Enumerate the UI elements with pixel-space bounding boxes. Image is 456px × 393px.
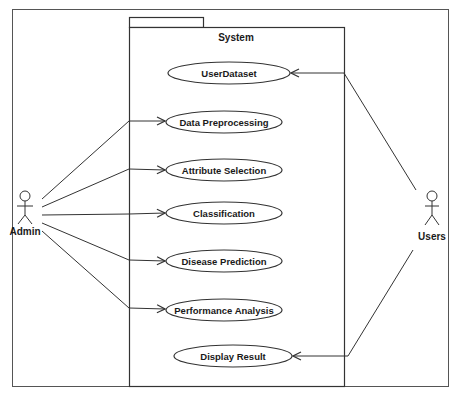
use-case-display-result[interactable]: Display Result xyxy=(174,345,292,367)
use-case-data-preprocessing[interactable]: Data Preprocessing xyxy=(166,111,282,133)
use-case-performance-analysis[interactable]: Performance Analysis xyxy=(166,299,282,321)
actor-users[interactable]: Users xyxy=(418,191,446,242)
package-tab xyxy=(130,18,204,28)
use-case-label: Display Result xyxy=(200,351,266,362)
use-case-classification[interactable]: Classification xyxy=(166,202,282,224)
system-label: System xyxy=(218,32,254,43)
use-case-userdataset[interactable]: UserDataset xyxy=(168,62,290,84)
use-case-label: Classification xyxy=(193,208,255,219)
use-case-label: UserDataset xyxy=(201,68,257,79)
actor-head-icon xyxy=(20,191,30,201)
use-case-diagram: System UserDataset Data Preprocessing At… xyxy=(0,0,456,393)
actor-label-admin: Admin xyxy=(9,226,40,237)
use-case-label: Attribute Selection xyxy=(182,165,267,176)
use-case-attribute-selection[interactable]: Attribute Selection xyxy=(166,159,282,181)
use-case-label: Performance Analysis xyxy=(174,305,273,316)
actor-admin[interactable]: Admin xyxy=(9,191,40,237)
use-case-label: Disease Prediction xyxy=(181,256,266,267)
use-case-disease-prediction[interactable]: Disease Prediction xyxy=(166,250,282,272)
use-case-label: Data Preprocessing xyxy=(179,117,268,128)
actor-head-icon xyxy=(427,191,437,201)
actor-label-users: Users xyxy=(418,231,446,242)
